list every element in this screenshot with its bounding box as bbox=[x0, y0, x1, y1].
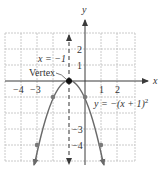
curve-arrow-right bbox=[102, 158, 104, 165]
point-1-neg4 bbox=[99, 143, 104, 148]
y-tick-1: 1 bbox=[77, 60, 82, 71]
parabola-graph: y x 2 1 −3 −4 −4 −3 1 2 x = −1 Vertex y … bbox=[0, 0, 164, 170]
point-0-neg1 bbox=[83, 95, 88, 100]
vertex-pointer-line bbox=[56, 73, 66, 79]
y-tick-neg3: −3 bbox=[72, 124, 83, 135]
point-neg3-neg4 bbox=[35, 143, 40, 148]
point-neg2-neg1 bbox=[51, 95, 56, 100]
y-tick-2: 2 bbox=[77, 44, 82, 55]
x-tick-2: 2 bbox=[115, 84, 120, 95]
grid bbox=[5, 33, 135, 161]
x-tick-neg3: −3 bbox=[30, 84, 41, 95]
y-axis-label: y bbox=[81, 4, 87, 15]
equation-label: y = −(x + 1)2 bbox=[93, 97, 149, 110]
equation-main: y = −(x + 1) bbox=[93, 98, 145, 110]
x-axis-label: x bbox=[152, 75, 158, 86]
vertex-point bbox=[66, 78, 72, 84]
vertex-label: Vertex bbox=[29, 67, 55, 78]
x-tick-neg4: −4 bbox=[13, 84, 24, 95]
y-tick-neg4: −4 bbox=[72, 140, 83, 151]
curve-arrow-left bbox=[34, 158, 36, 165]
equation-exponent: 2 bbox=[145, 97, 149, 105]
x-tick-1: 1 bbox=[99, 84, 104, 95]
symmetry-label: x = −1 bbox=[37, 53, 66, 64]
